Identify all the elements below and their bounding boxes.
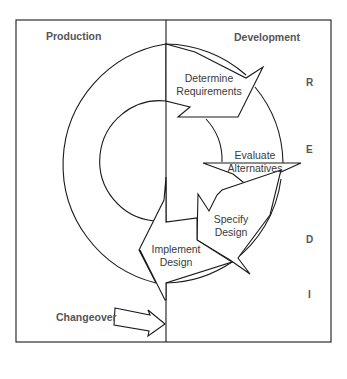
step-implement-line2: Design [146, 256, 206, 269]
step-evaluate-line1: Evaluate [224, 149, 286, 162]
changeover-arrow [114, 308, 165, 336]
development-label: Development [234, 31, 300, 44]
production-label: Production [46, 30, 101, 43]
inner-ring-right [206, 119, 222, 162]
phase-r: R [306, 76, 313, 89]
phase-i: I [308, 288, 311, 301]
step-specify-design: Specify Design [206, 213, 256, 239]
inner-ring [100, 101, 190, 221]
phase-e: E [306, 143, 313, 156]
phase-d: D [306, 233, 313, 246]
step-implement-line1: Implement [146, 243, 206, 256]
step-evaluate-alternatives: Evaluate Alternatives [224, 149, 286, 175]
step-specify-line2: Design [206, 226, 256, 239]
step-evaluate-line2: Alternatives [224, 162, 286, 175]
step-determine-line2: Requirements [176, 85, 242, 98]
step-determine-requirements: Determine Requirements [176, 72, 242, 98]
step-implement-design: Implement Design [146, 243, 206, 269]
step-determine-line1: Determine [176, 72, 242, 85]
step-specify-line1: Specify [206, 213, 256, 226]
changeover-label: Changeover [56, 311, 117, 324]
development-cycle-diagram [0, 0, 347, 379]
